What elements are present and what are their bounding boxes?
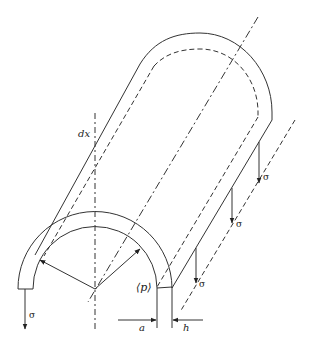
h-label: h <box>183 322 189 333</box>
right-section-bottom <box>157 287 172 288</box>
right-inner-generator <box>157 117 258 287</box>
dx-label: dx <box>78 128 90 139</box>
sigma-label-1: σ <box>263 172 269 182</box>
sigma-label-left: σ <box>29 310 35 320</box>
stress-line <box>180 120 295 312</box>
pressure-label: ⟨p⟩ <box>136 281 152 294</box>
radius-arrow-left <box>40 260 95 289</box>
back-outer-arc <box>140 33 272 120</box>
sigma-label-3: σ <box>199 279 205 289</box>
back-inner-arc <box>154 49 258 117</box>
radius-arrow-right <box>95 249 140 289</box>
shell-diagram: dx ⟨p⟩ a h σ σ σ σ <box>0 0 312 350</box>
a-label: a <box>139 322 145 333</box>
right-outer-generator <box>172 120 272 288</box>
sigma-label-2: σ <box>236 219 242 229</box>
left-outer-generator <box>35 64 140 255</box>
left-inner-generator <box>44 66 154 256</box>
